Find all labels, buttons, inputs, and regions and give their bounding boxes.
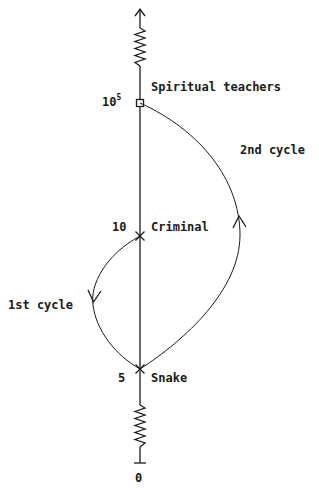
- level-label-spiritual-teachers: Spiritual teachers: [151, 80, 281, 94]
- tick-label-5: 5: [118, 371, 125, 385]
- level-label-snake: Snake: [151, 371, 187, 385]
- diagram-svg: [0, 0, 319, 493]
- tick-label-0: 0: [135, 471, 142, 485]
- axis-break-top-icon: [135, 28, 145, 66]
- diagram-canvas: 105 10 5 0 Spiritual teachers Criminal S…: [0, 0, 319, 493]
- second-cycle-curve: [140, 103, 240, 369]
- tick-label-1e5: 105: [102, 95, 121, 109]
- first-cycle-curve: [93, 236, 140, 369]
- tick-label-10: 10: [112, 220, 126, 234]
- axis-break-bottom-icon: [135, 405, 145, 447]
- level-label-criminal: Criminal: [151, 220, 209, 234]
- first-cycle-arrow-down-icon: [88, 290, 101, 302]
- cycle-label-second: 2nd cycle: [240, 143, 305, 157]
- cycle-label-first: 1st cycle: [8, 298, 73, 312]
